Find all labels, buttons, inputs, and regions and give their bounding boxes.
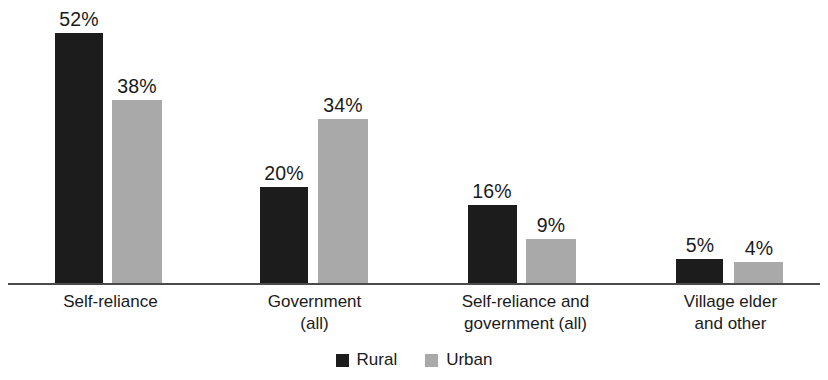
x-axis-label-government-line1: Government bbox=[268, 292, 362, 311]
bar-value-urban-village-elder: 4% bbox=[719, 238, 799, 258]
x-axis-label-self-reliance-and-government-line2: government (all) bbox=[438, 313, 613, 335]
bar-urban-village-elder bbox=[734, 262, 783, 284]
bar-value-urban-government: 34% bbox=[303, 95, 383, 115]
bar-urban-self-reliance-and-government bbox=[526, 239, 576, 284]
x-axis-line bbox=[8, 283, 820, 285]
bar-urban-government bbox=[318, 119, 368, 284]
x-axis-label-village-elder-line2: and other bbox=[648, 313, 813, 335]
legend-label-urban: Urban bbox=[446, 351, 492, 369]
legend-item-rural: Rural bbox=[336, 351, 398, 369]
chart-legend: Rural Urban bbox=[0, 351, 828, 369]
bar-value-rural-self-reliance: 52% bbox=[39, 9, 119, 29]
plot-area: 52% 38% 20% 34% 16% 9% 5% 4% bbox=[0, 0, 828, 284]
bar-chart: 52% 38% 20% 34% 16% 9% 5% 4% Self-relian… bbox=[0, 0, 828, 380]
legend-swatch-icon-rural bbox=[336, 354, 349, 367]
bar-rural-village-elder bbox=[676, 259, 723, 284]
x-axis-label-government: Government (all) bbox=[232, 291, 397, 334]
bar-value-urban-self-reliance-and-government: 9% bbox=[511, 215, 591, 235]
x-axis-label-government-line2: (all) bbox=[232, 313, 397, 335]
bar-value-rural-self-reliance-and-government: 16% bbox=[452, 181, 532, 201]
x-axis-label-village-elder: Village elder and other bbox=[648, 291, 813, 334]
x-axis-label-self-reliance-line1: Self-reliance bbox=[63, 292, 158, 311]
bar-value-rural-government: 20% bbox=[244, 163, 324, 183]
x-axis-label-self-reliance-and-government: Self-reliance and government (all) bbox=[438, 291, 613, 334]
bar-rural-government bbox=[260, 187, 308, 284]
legend-label-rural: Rural bbox=[357, 351, 398, 369]
bar-value-urban-self-reliance: 38% bbox=[97, 76, 177, 96]
x-axis-label-self-reliance-and-government-line1: Self-reliance and bbox=[462, 292, 590, 311]
bar-urban-self-reliance bbox=[112, 100, 162, 284]
bar-rural-self-reliance-and-government bbox=[468, 205, 517, 284]
x-axis-label-self-reliance: Self-reliance bbox=[28, 291, 193, 313]
bar-rural-self-reliance bbox=[55, 33, 103, 284]
legend-item-urban: Urban bbox=[425, 351, 492, 369]
x-axis-label-village-elder-line1: Village elder bbox=[684, 292, 777, 311]
legend-swatch-icon-urban bbox=[425, 354, 438, 367]
